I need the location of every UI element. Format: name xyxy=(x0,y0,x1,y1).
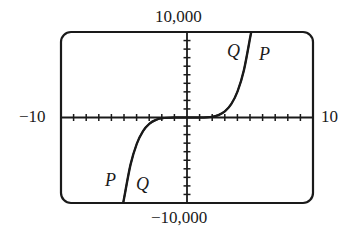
curve-label-p-lower: P xyxy=(105,171,116,189)
curve-label-q-lower: Q xyxy=(136,175,149,193)
x-max-label: 10 xyxy=(321,108,338,125)
y-max-label: 10,000 xyxy=(155,8,202,25)
curve-label-q-upper: Q xyxy=(227,42,240,60)
x-min-label: −10 xyxy=(19,108,46,125)
y-min-label: −10,000 xyxy=(151,209,207,226)
curve-label-p-upper: P xyxy=(259,45,270,63)
graph-window xyxy=(0,0,350,233)
